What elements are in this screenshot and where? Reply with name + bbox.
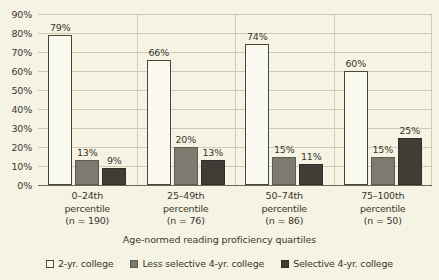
legend-swatch-icon	[130, 260, 138, 268]
bar-group: 79%13%9%	[38, 14, 137, 185]
x-axis-category-label-line: 0–24th	[38, 190, 137, 203]
x-axis-category-label-line: 50–74th	[235, 190, 334, 203]
y-axis-tick-label: 30%	[11, 123, 32, 134]
x-axis-category-label-line: 75–100th	[334, 190, 433, 203]
legend-swatch-icon	[281, 260, 289, 268]
x-axis-line	[38, 185, 432, 187]
bar[interactable]	[344, 71, 368, 185]
legend-label: Less selective 4-yr. college	[142, 258, 264, 269]
bar[interactable]	[398, 138, 422, 186]
legend-item[interactable]: Selective 4-yr. college	[281, 258, 393, 269]
x-axis-category-labels: 0–24thpercentile(n = 190)25–49thpercenti…	[38, 190, 432, 228]
bars: 74%15%11%	[235, 14, 334, 185]
legend: 2-yr. collegeLess selective 4-yr. colleg…	[0, 258, 439, 269]
bar-slot: 11%	[299, 14, 323, 185]
legend-label: 2-yr. college	[58, 258, 113, 269]
bar-slot: 25%	[398, 14, 422, 185]
bar[interactable]	[102, 168, 126, 185]
bar[interactable]	[245, 44, 269, 185]
bar-group: 66%20%13%	[137, 14, 236, 185]
y-axis-tick-label: 20%	[11, 142, 32, 153]
y-axis-tick-label: 60%	[11, 66, 32, 77]
plot-area: 79%13%9%66%20%13%74%15%11%60%15%25%	[38, 14, 432, 185]
x-axis-category-label: 0–24thpercentile(n = 190)	[38, 190, 137, 228]
y-axis-tick-label: 10%	[11, 161, 32, 172]
legend-item[interactable]: Less selective 4-yr. college	[130, 258, 264, 269]
y-axis-tick-label: 70%	[11, 47, 32, 58]
bar-slot: 13%	[75, 14, 99, 185]
bar-value-label: 25%	[399, 125, 420, 136]
bar-chart: 90%80%70%60%50%40%30%20%10%0% 79%13%9%66…	[0, 0, 439, 280]
bar-slot: 15%	[371, 14, 395, 185]
bar-slot: 60%	[344, 14, 368, 185]
x-axis-category-label-line: (n = 50)	[334, 215, 433, 228]
y-axis-tick-label: 90%	[11, 9, 32, 20]
x-axis-category-label: 50–74thpercentile(n = 86)	[235, 190, 334, 228]
bar[interactable]	[147, 60, 171, 185]
bar-value-label: 66%	[148, 47, 169, 58]
bar[interactable]	[201, 160, 225, 185]
x-axis-category-label-line: percentile	[334, 203, 433, 216]
bar-value-label: 60%	[345, 58, 366, 69]
bar-slot: 74%	[245, 14, 269, 185]
bar-value-label: 13%	[77, 147, 98, 158]
bar[interactable]	[48, 35, 72, 185]
x-axis-category-label-line: (n = 190)	[38, 215, 137, 228]
y-axis-tick-label: 40%	[11, 104, 32, 115]
bar-value-label: 11%	[301, 151, 322, 162]
bar-value-label: 79%	[50, 22, 71, 33]
y-axis-tick-labels: 90%80%70%60%50%40%30%20%10%0%	[0, 14, 36, 185]
bars: 66%20%13%	[137, 14, 236, 185]
bar-group: 60%15%25%	[334, 14, 433, 185]
bar-slot: 15%	[272, 14, 296, 185]
y-axis-tick-label: 50%	[11, 85, 32, 96]
x-axis-category-label-line: percentile	[235, 203, 334, 216]
legend-item[interactable]: 2-yr. college	[46, 258, 113, 269]
x-axis-category-label-line: (n = 86)	[235, 215, 334, 228]
bar-group: 74%15%11%	[235, 14, 334, 185]
x-axis-category-label-line: 25–49th	[137, 190, 236, 203]
bar[interactable]	[174, 147, 198, 185]
x-axis-category-label-line: (n = 76)	[137, 215, 236, 228]
bar[interactable]	[371, 157, 395, 186]
x-axis-title: Age-normed reading proficiency quartiles	[0, 234, 439, 245]
bar-slot: 79%	[48, 14, 72, 185]
bar-value-label: 15%	[372, 144, 393, 155]
bar[interactable]	[272, 157, 296, 186]
legend-swatch-icon	[46, 260, 54, 268]
bar-value-label: 13%	[202, 147, 223, 158]
bar-value-label: 9%	[107, 155, 122, 166]
bar-slot: 20%	[174, 14, 198, 185]
bar-value-label: 74%	[247, 31, 268, 42]
bars: 60%15%25%	[334, 14, 433, 185]
bar-value-label: 20%	[175, 134, 196, 145]
legend-label: Selective 4-yr. college	[293, 258, 393, 269]
bar-slot: 13%	[201, 14, 225, 185]
bar[interactable]	[75, 160, 99, 185]
y-axis-tick-label: 80%	[11, 28, 32, 39]
x-axis-category-label-line: percentile	[137, 203, 236, 216]
y-axis-tick-label: 0%	[17, 180, 32, 191]
x-axis-category-label: 75–100thpercentile(n = 50)	[334, 190, 433, 228]
bar-value-label: 15%	[274, 144, 295, 155]
bar[interactable]	[299, 164, 323, 185]
x-axis-category-label-line: percentile	[38, 203, 137, 216]
bar-slot: 9%	[102, 14, 126, 185]
bar-slot: 66%	[147, 14, 171, 185]
bar-groups: 79%13%9%66%20%13%74%15%11%60%15%25%	[38, 14, 432, 185]
x-axis-category-label: 25–49thpercentile(n = 76)	[137, 190, 236, 228]
bars: 79%13%9%	[38, 14, 137, 185]
